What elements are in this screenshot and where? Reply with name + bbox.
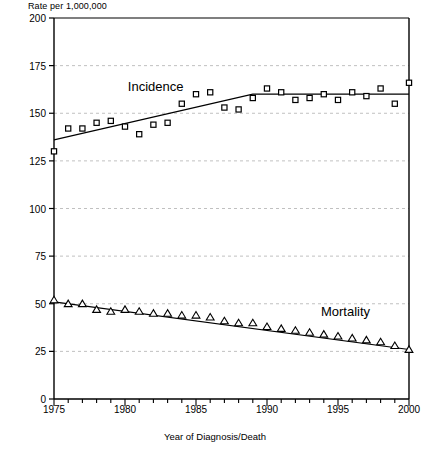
data-point-mortality bbox=[377, 338, 385, 345]
x-tick-label: 1995 bbox=[318, 404, 358, 415]
data-point-mortality bbox=[164, 310, 172, 317]
data-point-mortality bbox=[320, 331, 328, 338]
data-point-incidence bbox=[350, 90, 355, 95]
data-point-incidence bbox=[264, 86, 269, 91]
data-point-mortality bbox=[50, 296, 58, 303]
data-point-mortality bbox=[150, 310, 158, 317]
data-point-mortality bbox=[121, 306, 129, 313]
data-point-mortality bbox=[263, 323, 271, 330]
data-point-mortality bbox=[348, 334, 356, 341]
y-tick-label: 75 bbox=[16, 251, 46, 262]
chart-figure: Rate per 1,000,000 Year of Diagnosis/Dea… bbox=[0, 0, 430, 455]
data-point-mortality bbox=[235, 319, 243, 326]
data-point-mortality bbox=[306, 329, 314, 336]
data-point-incidence bbox=[151, 122, 156, 127]
y-tick-label: 125 bbox=[16, 155, 46, 166]
data-point-incidence bbox=[406, 80, 411, 85]
y-tick-label: 50 bbox=[16, 298, 46, 309]
y-tick-label: 150 bbox=[16, 108, 46, 119]
trend-line-incidence bbox=[54, 94, 409, 140]
data-point-mortality bbox=[363, 336, 371, 343]
data-point-incidence bbox=[250, 95, 255, 100]
data-point-incidence bbox=[307, 95, 312, 100]
x-tick-label: 1985 bbox=[176, 404, 216, 415]
data-point-mortality bbox=[135, 308, 143, 315]
x-axis-title: Year of Diagnosis/Death bbox=[0, 431, 430, 442]
data-point-incidence bbox=[122, 124, 127, 129]
data-point-mortality bbox=[192, 312, 200, 319]
data-point-mortality bbox=[277, 325, 285, 332]
data-point-incidence bbox=[51, 149, 56, 154]
series-label-incidence: Incidence bbox=[128, 79, 184, 94]
y-tick-label: 200 bbox=[16, 13, 46, 24]
data-point-incidence bbox=[392, 101, 397, 106]
data-point-mortality bbox=[292, 327, 300, 334]
data-point-incidence bbox=[66, 126, 71, 131]
x-tick-label: 2000 bbox=[389, 404, 429, 415]
data-point-mortality bbox=[391, 342, 399, 349]
y-tick-label: 175 bbox=[16, 60, 46, 71]
y-tick-label: 25 bbox=[16, 346, 46, 357]
data-point-incidence bbox=[222, 105, 227, 110]
data-point-incidence bbox=[94, 120, 99, 125]
x-tick-label: 1980 bbox=[105, 404, 145, 415]
data-point-mortality bbox=[334, 333, 342, 340]
data-point-incidence bbox=[378, 86, 383, 91]
data-point-incidence bbox=[80, 126, 85, 131]
y-tick-label: 100 bbox=[16, 203, 46, 214]
data-point-incidence bbox=[321, 92, 326, 97]
data-point-incidence bbox=[364, 94, 369, 99]
series-label-mortality: Mortality bbox=[321, 304, 370, 319]
data-point-mortality bbox=[249, 319, 257, 326]
data-point-incidence bbox=[179, 101, 184, 106]
x-tick-label: 1975 bbox=[34, 404, 74, 415]
y-axis-title: Rate per 1,000,000 bbox=[28, 1, 107, 11]
data-point-incidence bbox=[335, 97, 340, 102]
y-tick-label: 0 bbox=[16, 394, 46, 405]
plot-area bbox=[0, 0, 430, 455]
data-point-incidence bbox=[293, 97, 298, 102]
data-point-incidence bbox=[108, 118, 113, 123]
data-point-incidence bbox=[208, 90, 213, 95]
data-point-mortality bbox=[221, 317, 229, 324]
data-point-incidence bbox=[236, 107, 241, 112]
data-point-mortality bbox=[206, 313, 214, 320]
data-point-incidence bbox=[137, 132, 142, 137]
x-tick-label: 1990 bbox=[247, 404, 287, 415]
data-point-incidence bbox=[165, 120, 170, 125]
data-point-mortality bbox=[178, 312, 186, 319]
data-point-incidence bbox=[193, 92, 198, 97]
data-point-incidence bbox=[279, 90, 284, 95]
